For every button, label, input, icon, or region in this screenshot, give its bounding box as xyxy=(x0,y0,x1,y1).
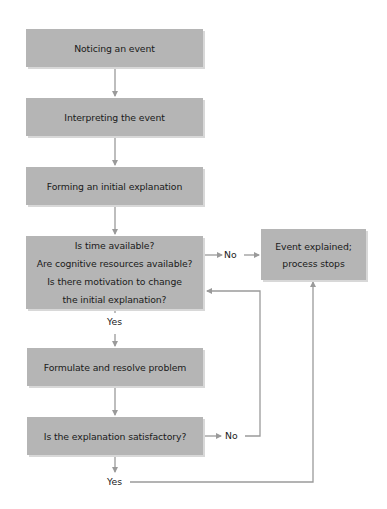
node-line: Is time available? xyxy=(75,237,155,255)
node-line: the initial explanation? xyxy=(63,291,167,309)
node-label: Formulate and resolve problem xyxy=(44,358,187,377)
node-forming-explanation: Forming an initial explanation xyxy=(26,167,203,205)
node-decision-questions: Is time available? Are cognitive resourc… xyxy=(26,236,203,309)
node-line: Are cognitive resources available? xyxy=(37,255,193,273)
node-label: Noticing an event xyxy=(74,39,155,58)
node-event-explained: Event explained; process stops xyxy=(261,229,366,280)
node-noticing-event: Noticing an event xyxy=(26,29,203,67)
node-label: Is the explanation satisfactory? xyxy=(44,427,186,446)
edge-label-decision-no: No xyxy=(224,249,237,261)
node-line: Event explained; xyxy=(275,238,351,255)
edge-label-satisfactory-no: No xyxy=(225,430,238,442)
node-formulate-problem: Formulate and resolve problem xyxy=(27,348,203,386)
edge-label-satisfactory-yes: Yes xyxy=(107,476,122,488)
node-label: Interpreting the event xyxy=(64,108,165,127)
node-label: Forming an initial explanation xyxy=(47,177,182,196)
node-interpreting-event: Interpreting the event xyxy=(26,98,203,136)
edge-label-decision-yes: Yes xyxy=(107,316,122,328)
node-satisfactory-question: Is the explanation satisfactory? xyxy=(27,417,203,455)
node-line: process stops xyxy=(282,255,344,272)
loop-no-to-decision xyxy=(207,291,260,436)
node-line: Is there motivation to change xyxy=(47,273,182,291)
